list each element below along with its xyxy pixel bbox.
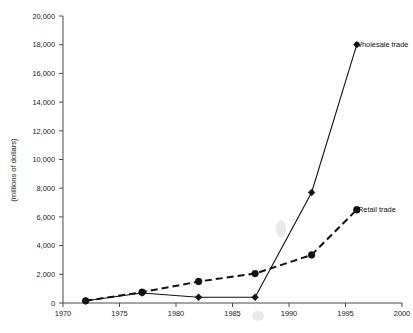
x-axis-ticks xyxy=(63,303,402,307)
series-label-wholesale: Wholesale trade xyxy=(355,40,408,49)
x-tick-label: 1975 xyxy=(111,309,127,318)
scan-smudge-icon xyxy=(276,220,286,238)
x-tick-label: 1990 xyxy=(281,309,297,318)
data-point-marker xyxy=(308,189,315,196)
x-axis: 1970 1975 1980 1985 1990 1995 2000 xyxy=(55,303,410,318)
x-tick-label: 1970 xyxy=(55,309,71,318)
y-tick-label: 18,000 xyxy=(32,40,55,49)
series-layer xyxy=(82,41,360,304)
y-tick-label: 0 xyxy=(51,299,55,308)
series-retail xyxy=(82,206,360,304)
y-tick-label: 14,000 xyxy=(32,98,55,107)
y-axis-tick-labels: 20,000 18,000 16,000 14,000 12,000 10,00… xyxy=(32,12,55,308)
data-point-marker xyxy=(195,294,202,301)
scan-smudge-icon xyxy=(252,311,264,321)
y-axis: 20,000 18,000 16,000 14,000 12,000 10,00… xyxy=(9,12,63,308)
y-axis-title: (millions of dollars) xyxy=(9,138,18,202)
series-line xyxy=(86,210,357,301)
y-tick-label: 4,000 xyxy=(37,241,56,250)
x-tick-label: 1980 xyxy=(168,309,184,318)
y-tick-label: 16,000 xyxy=(32,69,55,78)
data-point-marker xyxy=(139,289,146,296)
chart-container: 20,000 18,000 16,000 14,000 12,000 10,00… xyxy=(0,0,413,333)
x-tick-label: 1995 xyxy=(337,309,353,318)
y-tick-label: 10,000 xyxy=(32,155,55,164)
data-point-marker xyxy=(252,270,259,277)
data-point-marker xyxy=(195,278,202,285)
line-chart: 20,000 18,000 16,000 14,000 12,000 10,00… xyxy=(0,0,413,333)
y-tick-label: 12,000 xyxy=(32,127,55,136)
y-tick-label: 8,000 xyxy=(37,184,56,193)
y-axis-ticks xyxy=(59,16,63,303)
series-label-retail: Retail trade xyxy=(358,205,396,214)
y-tick-label: 2,000 xyxy=(37,270,56,279)
data-point-marker xyxy=(82,297,89,304)
y-tick-label: 20,000 xyxy=(32,12,55,21)
x-tick-label: 2000 xyxy=(394,309,410,318)
data-point-marker xyxy=(252,294,259,301)
y-tick-label: 6,000 xyxy=(37,213,56,222)
series-wholesale xyxy=(82,41,360,304)
data-point-marker xyxy=(308,252,315,259)
x-tick-label: 1985 xyxy=(224,309,240,318)
x-axis-tick-labels: 1970 1975 1980 1985 1990 1995 2000 xyxy=(55,309,410,318)
series-line xyxy=(86,45,357,301)
